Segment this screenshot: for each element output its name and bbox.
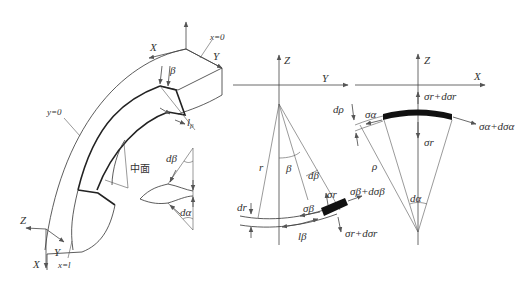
sigma-alpha-d-label: σα+dσα [479,120,515,132]
d-beta-arrow [170,170,176,182]
mid-surface-label: 中面 [130,162,150,174]
x0-leader [200,40,212,58]
beta-label: β [169,64,176,76]
dr-label: dr [237,201,248,213]
shell-3d-view: X Y x=0 β lβ y=0 中面 Z Y X x=l [20,22,225,270]
beta-arc [279,152,300,158]
sigma-alpha-label: σα [365,108,376,120]
y-axis-bottom [46,229,64,242]
d-alpha-label: dα [180,206,192,218]
x-axis-label-bottom: X [32,258,41,270]
xl-leader [68,241,72,258]
y-axis-label: Y [322,72,330,84]
d-beta-arc [184,161,193,163]
l-beta-label: lβ [298,230,307,242]
y-axis-label-bottom: Y [54,246,62,258]
y0-leader [64,118,80,136]
sigma-alpha-d-arrow [453,117,476,124]
l-beta-arrow-2 [175,120,185,124]
z-axis-label: Z [424,54,431,66]
inner-arc [112,140,125,185]
d-rho-arrow-top [352,104,354,120]
beta-label: β [285,162,292,174]
stress-element [383,110,452,121]
xl-label: x=l [57,260,71,270]
arc-line-2 [355,121,383,131]
lower-face-left [72,190,78,250]
z-axis-label-bottom: Z [20,214,27,226]
r-label: r [259,161,264,173]
diagram-canvas: X Y x=0 β lβ y=0 中面 Z Y X x=l [0,0,522,285]
z-axis-bottom [26,228,46,229]
l-beta-arrow-right [300,219,318,224]
xz-section-view: Z X dα ρ dρ σα σr+dσr σr σα+dσα [333,54,515,245]
sigma-r-d-label: σr+dσr [424,90,457,102]
d-alpha-label: dα [410,192,422,204]
sigma-r-d-arrow [338,217,341,232]
l-beta-arrow-left [282,224,300,227]
sigma-r-label: σr [424,136,434,148]
sigma-beta-d-label: σβ+dσβ [350,185,385,197]
x0-label: x=0 [209,32,225,42]
y-axis-label-top: Y [213,50,221,62]
element-top-edge [140,184,193,199]
ray-left [384,120,418,232]
l-beta-label: lβ [187,116,194,130]
arc-inner [240,214,337,227]
d-beta-label: dβ [166,152,178,164]
d-rho-label: dρ [333,103,344,115]
rho-label: ρ [371,160,377,172]
beta-arrow-1 [160,66,162,84]
d-rho-arrow-bottom [356,133,358,146]
d-alpha-arrow [170,205,180,214]
arc-outer [240,206,335,219]
cut-edge-1 [78,86,160,190]
sigma-r-d-label: σr+dσr [345,227,378,239]
y0-label: y=0 [46,107,62,117]
sigma-beta-label: σβ [303,202,314,214]
lower-cut [78,190,115,205]
d-beta-label: dβ [308,169,320,181]
outer-edge [45,49,186,250]
sigma-r-label: σr [327,188,337,200]
yz-section-view: Z Y r β dβ dr σβ σr σβ+dσβ σr+dσr lβ [233,54,385,245]
ray-beta [279,104,308,200]
element-sketch: dβ dα [140,148,193,230]
x-axis-label-top: X [149,41,158,53]
x-axis-label: X [473,70,482,82]
ray-rho [360,125,418,232]
element-bottom-edge [140,196,193,204]
z-axis-label: Z [284,54,291,66]
